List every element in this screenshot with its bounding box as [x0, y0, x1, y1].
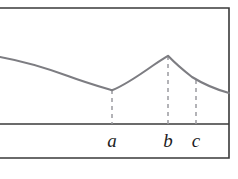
tick-label-c: c [192, 130, 201, 151]
graph-figure: a b c [0, 0, 238, 179]
graph-svg: a b c [0, 0, 238, 179]
plot-curve [0, 56, 229, 93]
tick-label-a: a [107, 130, 117, 151]
tick-label-b: b [163, 130, 173, 151]
